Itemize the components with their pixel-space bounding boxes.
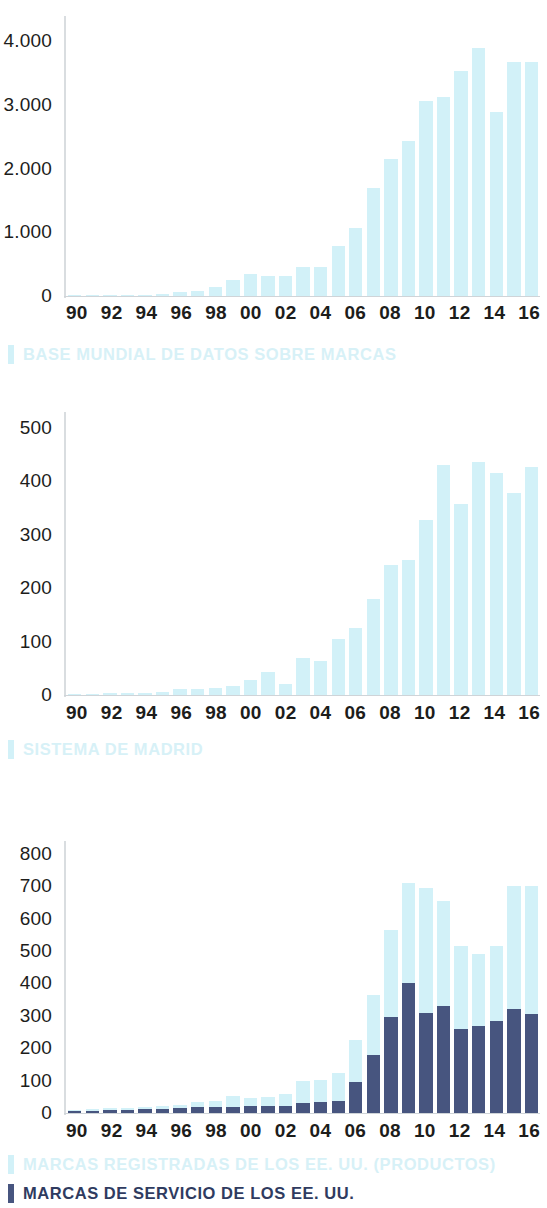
bar-segment	[472, 1026, 485, 1113]
legend-label-base-mundial: BASE MUNDIAL DE DATOS SOBRE MARCAS	[23, 345, 396, 364]
y-axis-labels-3: 0100200300400500600700800	[0, 828, 58, 1120]
x-tick-empty	[505, 1120, 518, 1142]
y-tick-label: 0	[41, 285, 52, 307]
y-tick-label: 0	[41, 684, 52, 706]
bar-segment	[490, 1021, 503, 1113]
bar-segment	[402, 560, 415, 695]
bar-segment	[138, 693, 151, 695]
x-axis-baseline-1	[64, 296, 540, 297]
bar-column	[329, 16, 347, 296]
bar-column	[435, 412, 453, 695]
bar-segment	[314, 1080, 327, 1102]
bar-segment	[472, 462, 485, 695]
bar-segment	[437, 901, 450, 1006]
x-tick-empty	[157, 302, 170, 324]
bar-segment	[173, 292, 186, 296]
legend-swatch-marcas-servicio	[8, 1184, 14, 1203]
bar-column	[365, 412, 383, 695]
bar-segment	[191, 291, 204, 296]
x-tick-label: 94	[136, 702, 158, 724]
x-tick-label: 16	[518, 302, 540, 324]
bar-segment	[437, 1006, 450, 1113]
x-tick-empty	[192, 1120, 205, 1142]
bar-column	[505, 412, 523, 695]
x-tick-empty	[505, 702, 518, 724]
x-tick-label: 02	[275, 702, 297, 724]
bar-column	[119, 412, 137, 695]
x-tick-label: 90	[66, 1120, 88, 1142]
bar-segment	[296, 658, 309, 695]
bar-column	[417, 412, 435, 695]
bar-column	[66, 412, 84, 695]
bar-segment	[279, 276, 292, 296]
bar-segment	[525, 1014, 538, 1113]
x-tick-label: 06	[344, 702, 366, 724]
x-tick-empty	[471, 702, 484, 724]
chart-marcas-ee-uu: 0100200300400500600700800 90 92 94 96 98…	[0, 820, 547, 1208]
y-axis-labels-1: 01.0002.0003.0004.000	[0, 8, 58, 298]
bar-column	[207, 841, 225, 1113]
bar-segment	[191, 689, 204, 695]
x-tick-label: 12	[449, 1120, 471, 1142]
x-tick-label: 92	[101, 702, 123, 724]
x-tick-label: 02	[275, 1120, 297, 1142]
bar-column	[189, 841, 207, 1113]
bar-column	[435, 841, 453, 1113]
bar-segment	[86, 694, 99, 695]
x-tick-label: 12	[449, 302, 471, 324]
x-tick-label: 08	[379, 702, 401, 724]
y-tick-label: 400	[20, 470, 52, 492]
bar-segment	[103, 295, 116, 296]
bar-column	[470, 841, 488, 1113]
bar-segment	[367, 1055, 380, 1113]
x-tick-empty	[401, 302, 414, 324]
bar-segment	[86, 1111, 99, 1113]
y-tick-label: 400	[20, 972, 52, 994]
x-axis-ticks-3: 90 92 94 96 98 00 02 04 06 08 10 12 14 1…	[66, 1120, 540, 1142]
bar-segment	[261, 1106, 274, 1113]
legend-swatch-marcas-registradas	[8, 1155, 14, 1174]
x-tick-label: 00	[240, 302, 262, 324]
plot-area-1: 01.0002.0003.0004.000	[0, 8, 547, 298]
bar-segment	[367, 599, 380, 695]
bar-column	[101, 412, 119, 695]
bar-column	[154, 412, 172, 695]
x-tick-empty	[192, 702, 205, 724]
y-tick-label: 700	[20, 875, 52, 897]
x-tick-empty	[262, 302, 275, 324]
bar-segment	[121, 295, 134, 296]
x-tick-label: 06	[344, 302, 366, 324]
bar-column	[452, 841, 470, 1113]
bar-column	[382, 16, 400, 296]
bar-segment	[332, 1101, 345, 1113]
x-tick-empty	[88, 702, 101, 724]
bar-segment	[314, 661, 327, 695]
y-axis-labels-2: 0100200300400500	[0, 398, 58, 698]
y-tick-label: 2.000	[3, 158, 52, 180]
bar-segment	[419, 888, 432, 1013]
x-tick-empty	[297, 302, 310, 324]
bar-column	[189, 412, 207, 695]
x-tick-label: 14	[484, 702, 506, 724]
x-tick-empty	[331, 302, 344, 324]
legend-swatch-base-mundial	[8, 345, 14, 364]
bar-segment	[349, 1040, 362, 1082]
bar-segment	[296, 1081, 309, 1102]
bar-segment	[349, 1082, 362, 1113]
bar-segment	[279, 684, 292, 695]
bar-segment	[226, 686, 239, 695]
x-tick-empty	[331, 702, 344, 724]
legend-swatch-sistema-madrid	[8, 740, 14, 759]
x-tick-label: 94	[136, 1120, 158, 1142]
bar-column	[154, 16, 172, 296]
bar-column	[417, 841, 435, 1113]
x-tick-empty	[157, 702, 170, 724]
bar-segment	[138, 295, 151, 296]
y-tick-label: 100	[20, 1070, 52, 1092]
bar-column	[505, 16, 523, 296]
bar-column	[101, 16, 119, 296]
bar-column	[259, 412, 277, 695]
bar-segment	[507, 62, 520, 296]
bar-segment	[525, 886, 538, 1013]
bar-group-1	[66, 16, 540, 296]
